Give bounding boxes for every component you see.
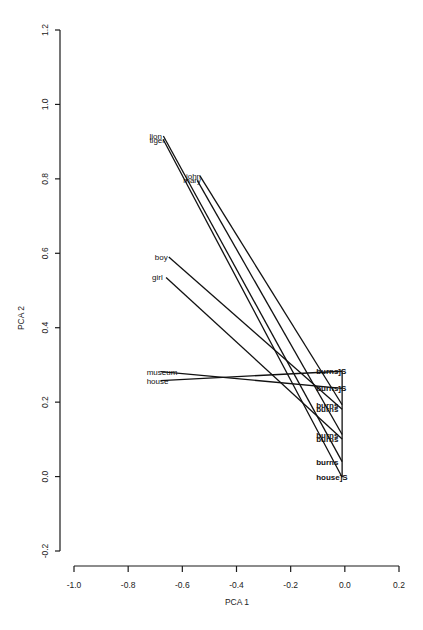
point-label: burns: [316, 458, 339, 467]
y-tick-label: -0.2: [40, 543, 50, 558]
x-tick-label: -0.6: [175, 580, 190, 590]
y-tick-label: 0.8: [40, 173, 50, 185]
point-label: burns]S: [316, 384, 347, 393]
pca-chart: -0.20.00.20.40.60.81.01.2 -1.0-0.8-0.6-0…: [0, 0, 423, 630]
y-tick-label: 0.6: [40, 247, 50, 259]
point-label: mary: [183, 176, 201, 185]
point-label: burns: [316, 435, 339, 444]
point-label: boy: [155, 253, 168, 262]
segment-tiger: [163, 140, 342, 478]
x-tick-label: -0.2: [283, 580, 298, 590]
x-tick-label: -1.0: [67, 580, 82, 590]
point-label: girl: [152, 273, 163, 282]
point-label: burns]S: [316, 367, 347, 376]
segment-mary: [197, 180, 342, 434]
point-label: museum: [147, 368, 178, 377]
y-tick-label: 0.4: [40, 322, 50, 334]
point-labels: liontigerjohnmaryboygirlmuseumhouseburns…: [147, 132, 349, 482]
x-tick-label: -0.4: [229, 580, 244, 590]
x-axis-title: PCA 1: [225, 597, 249, 607]
x-tick-label: 0.2: [393, 580, 405, 590]
x-tick-label: -0.8: [121, 580, 136, 590]
segments: [161, 136, 342, 477]
segment-house: [161, 371, 342, 380]
y-tick-label: 1.0: [40, 98, 50, 110]
y-tick-label: 1.2: [40, 24, 50, 36]
point-label: tiger: [149, 136, 165, 145]
point-label: burns: [316, 405, 339, 414]
x-tick-label: 0.0: [339, 580, 351, 590]
y-tick-label: 0.0: [40, 470, 50, 482]
point-label: house: [147, 377, 169, 386]
y-tick-label: 0.2: [40, 396, 50, 408]
y-axis-title: PCA 2: [16, 306, 26, 330]
x-axis: -1.0-0.8-0.6-0.4-0.20.00.2: [67, 566, 406, 590]
point-label: house]S: [316, 473, 348, 482]
segment-museum: [161, 372, 342, 389]
y-axis: -0.20.00.20.40.60.81.01.2: [40, 24, 60, 559]
